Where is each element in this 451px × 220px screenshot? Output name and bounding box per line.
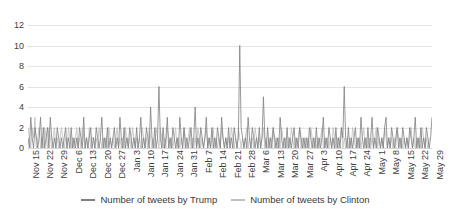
x-tick-label: Apr 17 <box>349 150 358 177</box>
x-tick-label: Jan 17 <box>161 150 170 177</box>
gridline <box>28 148 432 149</box>
x-tick-label: Apr 3 <box>320 150 329 172</box>
x-tick-label: Mar 20 <box>291 150 300 178</box>
x-tick-label: Apr 10 <box>335 150 344 177</box>
x-tick-label: Dec 20 <box>104 150 113 179</box>
x-tick-label: Mar 6 <box>262 150 271 173</box>
y-tick-label: 12 <box>14 21 24 30</box>
y-tick-label: 10 <box>14 41 24 50</box>
x-tick-label: Mar 27 <box>306 150 315 178</box>
y-tick-label: 4 <box>19 103 24 112</box>
tweets-line-chart: 024681012 Nov 15Nov 22Nov 29Dec 6Dec 13D… <box>0 0 451 220</box>
x-tick-label: Feb 28 <box>248 150 257 178</box>
y-axis: 024681012 <box>0 0 24 220</box>
y-tick-label: 6 <box>19 82 24 91</box>
x-tick-label: May 29 <box>436 150 445 180</box>
x-tick-label: May 15 <box>407 150 416 180</box>
x-tick-label: Apr 24 <box>363 150 372 177</box>
x-tick-label: Nov 29 <box>60 150 69 179</box>
legend-label: Number of tweets by Clinton <box>250 194 369 205</box>
x-tick-label: May 22 <box>421 150 430 180</box>
legend-item[interactable]: Number of tweets by Clinton <box>231 194 369 205</box>
x-tick-label: May 1 <box>378 150 387 175</box>
legend-line-icon <box>81 199 95 201</box>
x-tick-label: Feb 21 <box>234 150 243 178</box>
x-tick-label: Nov 15 <box>32 150 41 179</box>
plot-area <box>28 25 432 148</box>
series-lines <box>28 25 432 148</box>
y-tick-label: 8 <box>19 62 24 71</box>
x-tick-label: Dec 6 <box>75 150 84 174</box>
x-tick-label: Feb 14 <box>219 150 228 178</box>
y-tick-label: 0 <box>19 144 24 153</box>
x-tick-label: Mar 13 <box>277 150 286 178</box>
x-tick-label: Jan 31 <box>190 150 199 177</box>
y-tick-label: 2 <box>19 123 24 132</box>
legend-label: Number of tweets by Trump <box>100 194 217 205</box>
x-tick-label: Jan 3 <box>133 150 142 172</box>
x-tick-label: Feb 7 <box>205 150 214 173</box>
chart-legend: Number of tweets by TrumpNumber of tweet… <box>0 194 451 205</box>
x-tick-label: May 8 <box>392 150 401 175</box>
x-axis: Nov 15Nov 22Nov 29Dec 6Dec 13Dec 20Dec 2… <box>28 150 432 192</box>
x-tick-label: Nov 22 <box>46 150 55 179</box>
x-tick-label: Jan 10 <box>147 150 156 177</box>
x-tick-label: Dec 13 <box>89 150 98 179</box>
legend-item[interactable]: Number of tweets by Trump <box>81 194 217 205</box>
x-tick-label: Jan 24 <box>176 150 185 177</box>
legend-line-icon <box>231 199 245 201</box>
x-tick-label: Dec 27 <box>118 150 127 179</box>
